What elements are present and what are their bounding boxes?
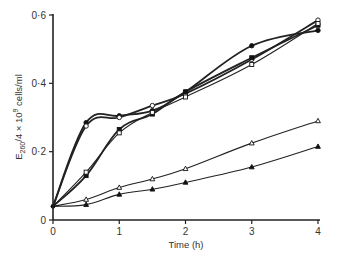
triangle-marker-icon xyxy=(117,185,122,189)
y-tick-label: 0·2 xyxy=(32,146,47,157)
series-open-triangles xyxy=(53,118,320,206)
square-marker-icon xyxy=(117,131,121,135)
triangle-marker-icon xyxy=(117,192,122,196)
y-tick-label: 0 xyxy=(40,215,46,226)
line-chart: 00·20·40·6 01234 Time (h) E260/4 × 109 c… xyxy=(0,0,338,255)
y-tick-label: 0·4 xyxy=(32,78,47,89)
circle-marker-icon xyxy=(84,124,88,128)
square-marker-icon xyxy=(184,90,188,94)
series-filled-squares xyxy=(53,23,320,206)
plot-series xyxy=(51,18,321,209)
series-line xyxy=(53,20,318,206)
y-tick-label: 0·6 xyxy=(32,10,47,21)
y-axis-ticks: 00·20·40·6 xyxy=(32,10,53,226)
square-marker-icon xyxy=(150,110,154,114)
triangle-marker-icon xyxy=(84,197,89,201)
circle-marker-icon xyxy=(250,44,254,48)
series-filled-circles xyxy=(53,28,320,206)
circle-marker-icon xyxy=(150,103,154,107)
triangle-marker-icon xyxy=(150,176,155,180)
circle-marker-icon xyxy=(316,28,320,32)
series-open-squares xyxy=(53,22,320,207)
x-tick-label: 2 xyxy=(183,226,189,237)
y-axis-title: E260/4 × 109 cells/ml xyxy=(12,74,26,160)
triangle-marker-icon xyxy=(316,144,321,148)
x-tick-label: 0 xyxy=(50,226,56,237)
x-axis-title: Time (h) xyxy=(168,239,203,250)
square-marker-icon xyxy=(184,95,188,99)
series-open-circles xyxy=(53,18,320,206)
square-marker-icon xyxy=(250,56,254,60)
triangle-marker-icon xyxy=(150,187,155,191)
x-tick-label: 1 xyxy=(116,226,122,237)
circle-marker-icon xyxy=(117,115,121,119)
triangle-marker-icon xyxy=(316,118,321,122)
square-marker-icon xyxy=(316,22,320,26)
x-tick-label: 3 xyxy=(249,226,255,237)
triangle-marker-icon xyxy=(183,166,188,170)
square-marker-icon xyxy=(250,63,254,67)
triangle-marker-icon xyxy=(183,180,188,184)
x-tick-label: 4 xyxy=(315,226,321,237)
square-marker-icon xyxy=(84,170,88,174)
triangle-marker-icon xyxy=(249,164,254,168)
triangle-marker-icon xyxy=(84,202,89,206)
x-axis-ticks: 01234 xyxy=(50,220,321,237)
triangle-marker-icon xyxy=(249,141,254,145)
